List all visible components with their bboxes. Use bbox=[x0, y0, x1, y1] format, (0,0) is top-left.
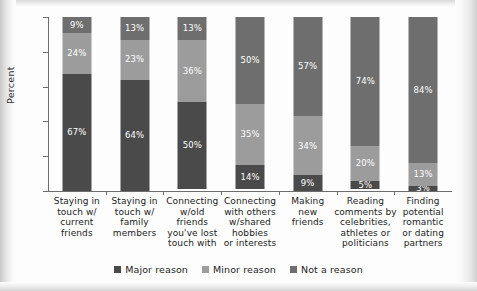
x-axis-category-label: Connecting w/old friends you've lost tou… bbox=[159, 196, 225, 249]
y-axis-title: Percent bbox=[5, 66, 16, 104]
stacked-bar[interactable]: 74%20%5% bbox=[351, 17, 380, 191]
x-axis-category-labels: Staying in touch w/ current friendsStayi… bbox=[48, 196, 452, 258]
bar-segment[interactable]: 3% bbox=[409, 186, 438, 191]
bar-slot: 13%36%50% bbox=[163, 17, 221, 191]
bar-segment[interactable]: 9% bbox=[62, 17, 91, 33]
bar-segment[interactable]: 67% bbox=[62, 74, 91, 191]
page-edge-shadow-bottom bbox=[0, 282, 477, 291]
bar-segment[interactable]: 9% bbox=[293, 175, 322, 191]
page-edge-shadow-right bbox=[455, 0, 477, 291]
legend-item-label: Not a reason bbox=[301, 264, 363, 275]
bar-slot: 57%34%9% bbox=[279, 17, 337, 191]
y-axis-tick bbox=[43, 191, 48, 192]
legend-color-swatch-icon bbox=[290, 266, 297, 273]
bar-segment-value-label: 67% bbox=[67, 128, 86, 137]
bar-segment[interactable]: 24% bbox=[62, 33, 91, 75]
bar-segment-value-label: 20% bbox=[356, 159, 375, 168]
bar-segment-value-label: 13% bbox=[183, 24, 202, 33]
bar-slot: 9%24%67% bbox=[48, 17, 106, 191]
x-axis-category-label: Making new friends bbox=[275, 196, 341, 228]
bar-series-group: 9%24%67%13%23%64%13%36%50%50%35%14%57%34… bbox=[48, 17, 452, 191]
x-axis-tick bbox=[337, 191, 338, 195]
bar-segment[interactable]: 20% bbox=[351, 146, 380, 181]
legend-color-swatch-icon bbox=[114, 266, 121, 273]
x-axis-line bbox=[48, 191, 452, 192]
x-axis-category-label: Finding potential romantic or dating par… bbox=[390, 196, 456, 249]
stacked-bar[interactable]: 84%13%3% bbox=[409, 17, 438, 191]
plot-area: 9%24%67%13%23%64%13%36%50%50%35%14%57%34… bbox=[48, 17, 452, 191]
bar-segment-value-label: 64% bbox=[125, 131, 144, 140]
bar-segment[interactable]: 35% bbox=[235, 104, 264, 165]
bar-segment[interactable]: 23% bbox=[120, 40, 149, 80]
stacked-bar[interactable]: 57%34%9% bbox=[293, 17, 322, 191]
legend-item-label: Minor reason bbox=[213, 264, 276, 275]
bar-segment-value-label: 57% bbox=[298, 62, 317, 71]
bar-segment[interactable]: 36% bbox=[178, 40, 207, 103]
chart-legend: Major reasonMinor reasonNot a reason bbox=[0, 264, 477, 275]
bar-segment[interactable]: 50% bbox=[235, 17, 264, 104]
bar-segment[interactable]: 13% bbox=[178, 17, 207, 40]
bar-segment-value-label: 14% bbox=[240, 173, 259, 182]
x-axis-tick bbox=[279, 191, 280, 195]
chart-page: Percent 100806040200 9%24%67%13%23%64%13… bbox=[0, 0, 477, 291]
bar-segment-value-label: 23% bbox=[125, 55, 144, 64]
bar-segment[interactable]: 34% bbox=[293, 116, 322, 175]
bar-segment-value-label: 84% bbox=[414, 86, 433, 95]
legend-color-swatch-icon bbox=[202, 266, 209, 273]
bar-segment-value-label: 24% bbox=[67, 49, 86, 58]
legend-item-label: Major reason bbox=[125, 264, 188, 275]
bar-segment[interactable]: 13% bbox=[120, 17, 149, 40]
bar-segment[interactable]: 84% bbox=[409, 17, 438, 163]
bar-segment-value-label: 36% bbox=[183, 67, 202, 76]
bar-segment[interactable]: 74% bbox=[351, 17, 380, 146]
bar-segment-value-label: 50% bbox=[240, 56, 259, 65]
stacked-bar[interactable]: 13%36%50% bbox=[178, 17, 207, 191]
stacked-bar[interactable]: 9%24%67% bbox=[62, 17, 91, 191]
bar-segment[interactable]: 64% bbox=[120, 80, 149, 191]
bar-segment-value-label: 3% bbox=[416, 186, 430, 191]
bar-segment-value-label: 13% bbox=[414, 170, 433, 179]
x-axis-category-label: Reading comments by celebrities, athlete… bbox=[333, 196, 399, 249]
bar-slot: 13%23%64% bbox=[106, 17, 164, 191]
legend-item[interactable]: Minor reason bbox=[202, 264, 276, 275]
x-axis-tick bbox=[394, 191, 395, 195]
bar-segment[interactable]: 14% bbox=[235, 165, 264, 189]
x-axis-category-label: Connecting with others w/shared hobbies … bbox=[217, 196, 283, 249]
bar-slot: 50%35%14% bbox=[221, 17, 279, 191]
bar-segment-value-label: 9% bbox=[70, 21, 84, 30]
x-axis-tick bbox=[163, 191, 164, 195]
bar-slot: 84%13%3% bbox=[394, 17, 452, 191]
bar-segment-value-label: 34% bbox=[298, 142, 317, 151]
x-axis-category-label: Staying in touch w/ current friends bbox=[44, 196, 110, 238]
bar-segment[interactable]: 50% bbox=[178, 102, 207, 189]
bar-segment[interactable]: 13% bbox=[409, 163, 438, 186]
page-edge-shadow-top bbox=[0, 0, 477, 7]
x-axis-tick bbox=[221, 191, 222, 195]
bar-slot: 74%20%5% bbox=[337, 17, 395, 191]
stacked-bar[interactable]: 13%23%64% bbox=[120, 17, 149, 191]
x-axis-category-label: Staying in touch w/ family members bbox=[102, 196, 168, 238]
x-axis-tick bbox=[106, 191, 107, 195]
bar-segment-value-label: 5% bbox=[359, 181, 373, 190]
bar-segment-value-label: 13% bbox=[125, 24, 144, 33]
stacked-bar[interactable]: 50%35%14% bbox=[235, 17, 264, 191]
bar-segment[interactable]: 5% bbox=[351, 181, 380, 190]
bar-segment[interactable]: 57% bbox=[293, 17, 322, 116]
page-edge-shadow-left bbox=[0, 0, 16, 291]
bar-segment-value-label: 35% bbox=[240, 130, 259, 139]
bar-segment-value-label: 9% bbox=[301, 179, 315, 188]
legend-item[interactable]: Not a reason bbox=[290, 264, 363, 275]
bar-segment-value-label: 74% bbox=[356, 77, 375, 86]
legend-item[interactable]: Major reason bbox=[114, 264, 188, 275]
bar-segment-value-label: 50% bbox=[183, 141, 202, 150]
